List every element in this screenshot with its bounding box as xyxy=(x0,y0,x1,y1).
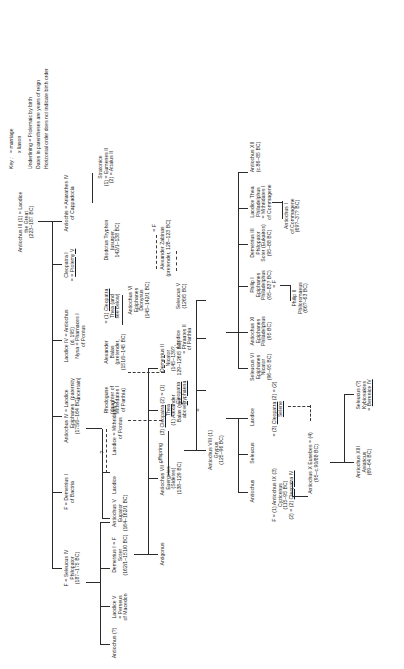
connector xyxy=(238,419,239,493)
connector xyxy=(344,394,354,395)
node-antigonus: Antigonus xyxy=(160,527,166,581)
connector xyxy=(52,221,62,222)
node-seleucus-v: Seleucus V (126/5 BC) xyxy=(176,273,187,319)
node-antiochus-ix: F = (1) Antiochus IX (3) Cyzicenus (115–… xyxy=(272,449,294,541)
node-line: (2) = Attalus II xyxy=(109,139,115,195)
node-cleopatra-tryphaena: Cleopatra Tryphaena xyxy=(176,369,187,417)
connector xyxy=(238,454,248,455)
connector xyxy=(52,340,62,341)
node-line: (151/0–145 BC) xyxy=(121,329,127,375)
connector xyxy=(102,429,103,519)
dashed-connector xyxy=(176,251,177,271)
node-line: of Parthia xyxy=(187,315,193,363)
connector xyxy=(100,606,110,607)
node-line: Antiochus xyxy=(250,469,256,513)
connector xyxy=(292,496,308,497)
ptolemaic-underline: = Ptolemy V xyxy=(69,249,75,277)
dashed-connector xyxy=(128,420,162,421)
node-line: 142/1–138 BC) xyxy=(115,207,121,273)
connector xyxy=(238,368,248,369)
node-antiochus-viii: Antiochus VIII (1) Grypus (125–96 BC) xyxy=(208,423,225,477)
node-stratonice: Stratonice (1) = Eumenes II (2) = Attalu… xyxy=(98,139,115,195)
node-line: (126/5 BC) xyxy=(182,273,188,319)
node-diodotus-tryphon: Diodotus Tryphon (usurper, 142/1–138 BC) xyxy=(104,207,121,273)
connector xyxy=(330,462,344,463)
connector xyxy=(122,295,123,325)
node-line: (c.86–85 BC) xyxy=(256,131,262,183)
connector xyxy=(52,222,53,569)
rotated-diagram-wrapper: Key : = marriage x liason Underlining = … xyxy=(0,0,404,669)
connector xyxy=(196,301,197,451)
node-antiochus-x: Antiochus X Eusebes = (4) (95–c.90/88 BC… xyxy=(308,421,319,505)
key-line-4: Dates in parentheses are years of reign xyxy=(35,68,43,169)
connector xyxy=(238,492,248,493)
node-laodice-child-2: Laodice xyxy=(250,395,256,439)
node-line: (95–c.90/88 BC) xyxy=(314,421,320,505)
node-line: of Macedon xyxy=(123,585,129,629)
node-line: Laodice xyxy=(250,395,256,439)
connector xyxy=(52,416,62,417)
key-line-5: Horizontal order does not indicate birth… xyxy=(43,68,51,169)
connector xyxy=(196,390,206,391)
connector xyxy=(148,369,149,555)
node-antiochus-vi: Antiochus VI Epiphanes Dionysus (145–142… xyxy=(128,273,150,327)
connector xyxy=(148,410,158,411)
connector xyxy=(134,554,148,555)
connector xyxy=(38,221,52,222)
connector xyxy=(344,395,345,463)
key-line-1-value: = marriage xyxy=(8,129,16,154)
node-laodice-v: Laodice V = Perseus of Macedon xyxy=(112,585,129,629)
marker-f-2: = F xyxy=(272,277,278,291)
connector xyxy=(238,286,248,287)
connector xyxy=(102,518,110,519)
node-antiochus-xiii: Antiochus XIII Asiaticus (69–64 BC) xyxy=(356,435,373,489)
node-line: (145–142/1 BC) xyxy=(145,273,151,327)
node-line: of Pontus xyxy=(81,293,87,379)
node-line: (69–64 BC) xyxy=(367,435,373,489)
marriage-equals-sign: = xyxy=(196,403,202,417)
connector xyxy=(196,300,206,301)
node-line: (66?–63 BC) xyxy=(303,271,309,325)
connector xyxy=(148,478,158,479)
dashed-connector xyxy=(288,406,310,407)
node-demetrius-i-bactria: F = Demetrius I of Bactria xyxy=(64,455,75,529)
node-line: = xyxy=(196,403,202,417)
node-line: (95 BC) xyxy=(267,305,273,357)
connector xyxy=(86,428,102,429)
node-line: (138–129 BC) xyxy=(177,449,183,507)
node-line: Selene xyxy=(278,371,284,447)
node-line: offspring xyxy=(158,433,164,473)
connector xyxy=(100,568,110,569)
node-line: Laodice xyxy=(112,467,118,503)
label-offspring: offspring xyxy=(158,433,164,473)
dashed-connector xyxy=(128,372,164,373)
node-line: of Cappadocia xyxy=(70,155,76,251)
connector xyxy=(238,244,248,245)
node-line: see below) xyxy=(115,279,121,333)
connector xyxy=(292,481,293,497)
ptolemaic-underline: Berenice IV xyxy=(366,379,372,406)
node-laodice-iv: Laodice IV = Antiochus (d. 195) Nysa = P… xyxy=(64,293,86,379)
connector xyxy=(92,173,93,203)
node-line: ? xyxy=(100,447,106,457)
connector xyxy=(148,554,158,555)
node-antiochus-iii: Antiochus III (1) = Laodice the Great (2… xyxy=(18,179,35,265)
ptolemaic-underline: Tryphaena xyxy=(181,381,187,406)
node-laodice-child: Laodice xyxy=(112,467,118,503)
node-cleopatra-selene: = (3) Cleopatra (2) = (2) Selene xyxy=(272,371,283,447)
node-line: = F xyxy=(272,277,278,291)
node-line: of Bactria xyxy=(70,455,76,529)
node-line: (164–162/1 BC) xyxy=(123,485,129,541)
connector xyxy=(100,583,101,645)
node-philip-ii: Philip II Philoromaeus (66?–63 BC) xyxy=(292,271,309,325)
key-line-2: x liason xyxy=(16,68,24,169)
key-line-1: Key : xyxy=(8,68,16,169)
connector xyxy=(196,338,206,339)
node-line: (69?–37? BC) xyxy=(295,187,301,245)
dashed-connector xyxy=(106,429,107,473)
marker-f-1: = F xyxy=(152,221,158,235)
node-rhodogune: Rhodogune (daughter of Mithridates I of … xyxy=(104,377,126,423)
connector xyxy=(238,208,248,209)
family-tree-canvas: Key : = marriage x liason Underlining = … xyxy=(0,0,404,669)
connector xyxy=(86,582,100,583)
